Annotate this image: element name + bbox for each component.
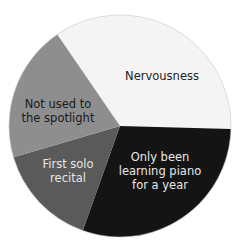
slice-label-line: the spotlight — [22, 111, 95, 125]
slice-label-line: First solo — [42, 157, 93, 171]
slice-label-line: Not used to — [25, 97, 92, 111]
slice-label: Not used tothe spotlight — [22, 97, 95, 125]
slice-label-line: Nervousness — [125, 69, 199, 83]
slice-label: First solorecital — [42, 157, 93, 185]
slice-label: Nervousness — [125, 69, 199, 83]
slice-label-line: Only been — [131, 150, 190, 164]
pie-chart-canvas: NervousnessOnly beenlearning pianofor a … — [0, 0, 244, 249]
slice-label-line: for a year — [132, 178, 188, 192]
slice-label-line: learning piano — [119, 164, 201, 178]
slices-layer — [9, 15, 231, 237]
slice-label-line: recital — [50, 171, 86, 185]
pie-chart: NervousnessOnly beenlearning pianofor a … — [0, 0, 244, 249]
